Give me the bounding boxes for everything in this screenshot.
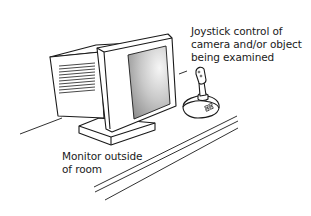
joystick-leader-line	[179, 71, 187, 74]
joystick-icon	[183, 67, 219, 118]
monitor-label: Monitor outside of room	[62, 150, 172, 176]
monitor-icon	[50, 34, 176, 145]
joystick-label: Joystick control of camera and/or object…	[191, 25, 309, 64]
